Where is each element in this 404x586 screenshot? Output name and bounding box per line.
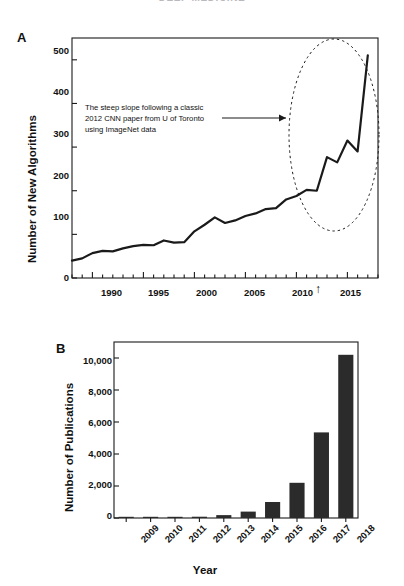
- panel-b-bar-2015: [265, 502, 280, 518]
- panel-b-bar-2014: [241, 512, 256, 518]
- panel-b-bar-2016: [289, 483, 304, 518]
- panel-b-bar-2017: [314, 432, 329, 518]
- panel-b-bar-2010: [143, 517, 158, 518]
- panel-b-bar-2012: [192, 517, 207, 518]
- panel-b-x-ticks: [126, 518, 346, 522]
- panel-b-bars: [119, 355, 354, 518]
- panel-b-bar-2011: [167, 517, 182, 518]
- panel-b-y-ticks: [114, 358, 119, 518]
- panel-b-plot: [0, 0, 404, 586]
- panel-b-bar-2009: [119, 517, 134, 518]
- figure-container: DEEP MEDICINE A Number of New Algorithms…: [0, 0, 404, 586]
- panel-b-bar-2018: [338, 355, 353, 518]
- panel-b-bar-2013: [216, 515, 231, 518]
